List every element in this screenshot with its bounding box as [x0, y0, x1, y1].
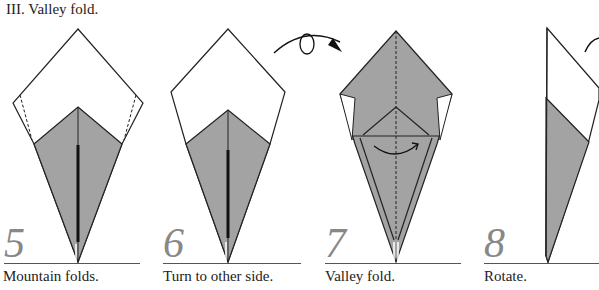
step-7-rule: [325, 263, 461, 264]
step-5-number: 5: [4, 222, 25, 264]
step-7-number: 7: [325, 222, 346, 264]
step-8-caption: Rotate.: [484, 268, 527, 285]
step-8-rule: [484, 263, 599, 264]
step-5-rule: [4, 263, 140, 264]
step-7-diagram: [340, 31, 452, 262]
step-6-caption: Turn to other side.: [163, 268, 273, 285]
rotate-arrow-icon: [585, 38, 599, 52]
step-8-diagram: [546, 28, 599, 262]
turn-over-icon: [274, 34, 342, 54]
step-6-diagram: [171, 29, 285, 262]
step-7-caption: Valley fold.: [325, 268, 395, 285]
step-6-rule: [163, 263, 301, 264]
origami-diagrams: [0, 0, 599, 290]
step-8-number: 8: [484, 222, 505, 264]
step-6-number: 6: [163, 222, 184, 264]
step-5-caption: Mountain folds.: [3, 268, 99, 285]
step-5-diagram: [13, 29, 143, 262]
